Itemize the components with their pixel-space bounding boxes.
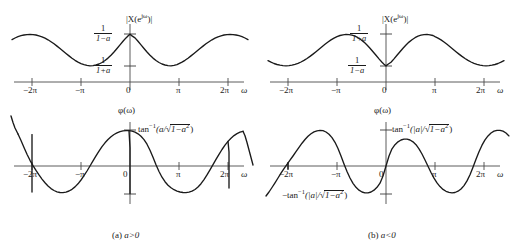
title-prefix: |X(e <box>126 14 141 24</box>
xtick-label-pi: π <box>176 86 181 95</box>
title-suffix: )| <box>147 14 152 24</box>
xtick-label-minus-2pi: −2π <box>23 86 37 95</box>
xtick-label-2pi: 2π <box>220 170 229 179</box>
magnitude-a-positive-lower-level-label: 1 1+a <box>94 56 112 75</box>
radicand: 1−a2 <box>324 190 344 200</box>
radicand-exponent: 2 <box>186 122 189 129</box>
panel-phase-a-positive: φ(ω) tan−1(a/√1−a2) −2π −π 0 π 2π ω <box>8 104 256 214</box>
panel-magnitude-a-negative: |X(ejω)| 1 1+a 1 1−a −2π −π 0 π 2π ω <box>264 8 512 100</box>
arctan-argument-numerator: (|a|/ <box>305 190 320 200</box>
arctan-argument-numerator: (|a|/ <box>410 124 425 134</box>
x-axis-label: ω <box>497 170 503 179</box>
radicand-expression: 1−a <box>430 124 445 134</box>
caption-tag: (b) <box>368 230 379 240</box>
fraction-numerator: 1 <box>350 24 368 33</box>
phase-a-negative-trough-annotation: −tan−1(|a|/√1−a2) <box>282 190 347 200</box>
radicand: 1−a2 <box>170 124 190 134</box>
xtick-label-minus-pi: −π <box>75 86 85 95</box>
radicand-expression: 1−a <box>171 124 186 134</box>
caption-a-negative: (b) a<0 <box>368 230 396 240</box>
phase-curve-discontinuity-center <box>129 131 130 194</box>
xtick-label-pi: π <box>432 86 437 95</box>
fraction-numerator: 1 <box>94 24 112 33</box>
phase-a-negative-peak-annotation: tan−1(|a|/√1−a2) <box>392 124 452 134</box>
caption-a-positive: (a) a>0 <box>112 230 139 240</box>
radicand-exponent: 2 <box>445 122 448 129</box>
fraction-numerator: 1 <box>94 56 112 65</box>
title-prefix: |X(e <box>382 14 397 24</box>
fraction-denominator: 1+a <box>350 33 368 43</box>
x-axis-label: ω <box>241 86 247 95</box>
x-axis-label: ω <box>497 86 503 95</box>
magnitude-a-negative-title: |X(ejω)| <box>382 15 408 24</box>
phase-curve-segment-left-edge <box>11 116 18 134</box>
phase-a-positive-peak-annotation: tan−1(a/√1−a2) <box>138 124 193 134</box>
magnitude-a-negative-lower-level-label: 1 1−a <box>348 56 366 75</box>
xtick-label-minus-2pi: −2π <box>279 170 293 179</box>
fraction-numerator: 1 <box>348 56 366 65</box>
xtick-label-2pi: 2π <box>476 86 485 95</box>
phase-a-negative-title: φ(ω) <box>374 106 391 115</box>
panel-magnitude-a-positive: |X(ejω)| 1 1−a 1 1+a −2π −π 0 π 2π ω <box>8 8 256 100</box>
arctan-inverse-exponent: −1 <box>149 122 156 129</box>
fraction-denominator: 1−a <box>94 33 112 43</box>
phase-a-positive-plot <box>8 104 256 214</box>
closing-paren: ) <box>449 124 452 134</box>
arctan-label: tan <box>392 124 403 134</box>
magnitude-a-negative-upper-level-label: 1 1+a <box>350 24 368 43</box>
xtick-label-2pi: 2π <box>220 86 229 95</box>
xtick-label-minus-pi: −π <box>331 170 341 179</box>
xtick-label-minus-2pi: −2π <box>23 170 37 179</box>
x-axis-label: ω <box>241 170 247 179</box>
arctan-label: tan <box>287 190 298 200</box>
xtick-label-pi: π <box>176 170 181 179</box>
fraction-denominator: 1−a <box>348 65 366 75</box>
xtick-label-zero: 0 <box>382 86 387 95</box>
caption-condition: a>0 <box>124 230 139 240</box>
xtick-label-zero: 0 <box>123 170 128 179</box>
closing-paren: ) <box>344 190 347 200</box>
arctan-label: tan <box>138 124 149 134</box>
radicand: 1−a2 <box>429 124 449 134</box>
radicand-expression: 1−a <box>325 190 340 200</box>
title-suffix: )| <box>403 14 408 24</box>
fraction-denominator: 1+a <box>94 65 112 75</box>
caption-condition: a<0 <box>381 230 396 240</box>
closing-paren: ) <box>190 124 193 134</box>
xtick-label-minus-pi: −π <box>331 86 341 95</box>
phase-curve-segment-right-edge <box>243 131 253 165</box>
panel-phase-a-negative: φ(ω) tan−1(|a|/√1−a2) −tan−1(|a|/√1−a2) … <box>264 104 512 214</box>
magnitude-a-positive-upper-level-label: 1 1−a <box>94 24 112 43</box>
xtick-label-zero: 0 <box>126 86 131 95</box>
xtick-label-minus-pi: −π <box>75 170 85 179</box>
magnitude-a-positive-title: |X(ejω)| <box>126 15 152 24</box>
arctan-inverse-exponent: −1 <box>298 188 305 195</box>
xtick-label-zero: 0 <box>379 170 384 179</box>
xtick-label-2pi: 2π <box>476 170 485 179</box>
phase-a-positive-title: φ(ω) <box>118 106 135 115</box>
arctan-inverse-exponent: −1 <box>403 122 410 129</box>
radicand-exponent: 2 <box>340 188 343 195</box>
caption-tag: (a) <box>112 230 122 240</box>
phase-curve <box>266 130 509 196</box>
arctan-argument-numerator: (a/ <box>156 124 166 134</box>
dtft-spectra-figure: |X(ejω)| 1 1−a 1 1+a −2π −π 0 π 2π ω <box>0 0 512 250</box>
xtick-label-pi: π <box>432 170 437 179</box>
xtick-label-minus-2pi: −2π <box>279 86 293 95</box>
